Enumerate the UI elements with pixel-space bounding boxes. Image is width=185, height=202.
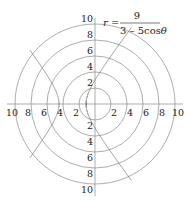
equation-equals: =	[111, 17, 119, 28]
polar-plot: 108642246810108642246810 r = 9 3 – 5cosθ	[0, 0, 185, 202]
tick-label-top-2: 2	[87, 77, 93, 88]
tick-label-right-6: 6	[143, 107, 149, 118]
tick-label-bottom-2: 2	[87, 120, 93, 131]
tick-label-left-2: 2	[73, 107, 79, 118]
equation-label: r = 9 3 – 5cosθ	[103, 10, 167, 36]
tick-label-right-10: 10	[172, 107, 184, 118]
tick-label-right-8: 8	[159, 107, 165, 118]
equation-denominator: 3 – 5cosθ	[120, 25, 167, 36]
tick-label-bottom-6: 6	[87, 152, 93, 163]
equation-numerator: 9	[134, 10, 140, 21]
tick-label-bottom-10: 10	[81, 184, 93, 195]
tick-label-right-4: 4	[127, 107, 133, 118]
tick-label-left-6: 6	[41, 107, 47, 118]
tick-label-left-8: 8	[25, 107, 31, 118]
tick-label-bottom-8: 8	[87, 168, 93, 179]
tick-label-top-4: 4	[87, 61, 93, 72]
tick-label-top-6: 6	[87, 45, 93, 56]
tick-label-right-2: 2	[111, 107, 117, 118]
tick-label-top-8: 8	[87, 29, 93, 40]
tick-label-left-4: 4	[57, 107, 63, 118]
tick-label-top-10: 10	[81, 13, 93, 24]
tick-label-left-10: 10	[6, 107, 18, 118]
equation-lhs: r	[103, 17, 109, 28]
tick-label-bottom-4: 4	[87, 136, 93, 147]
